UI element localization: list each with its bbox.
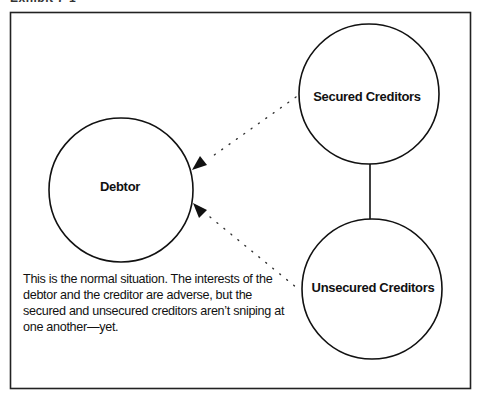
debtor-label: Debtor [100, 179, 140, 194]
secured-creditors-label: Secured Creditors [313, 89, 421, 104]
arrowhead-icon [192, 156, 207, 170]
arrowhead-icon [193, 203, 207, 218]
unsecured-creditors-label: Unsecured Creditors [312, 280, 435, 295]
explanatory-note: This is the normal situation. The intere… [23, 271, 293, 335]
secured-to-debtor-dotted-line [210, 97, 296, 158]
